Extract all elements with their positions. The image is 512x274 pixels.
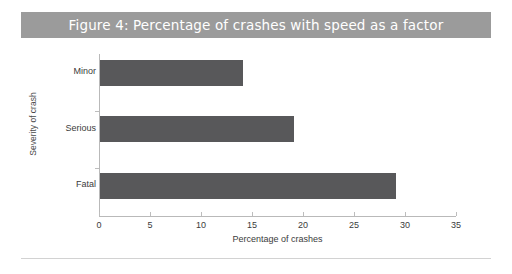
x-axis-tick xyxy=(303,212,304,216)
x-axis-tick xyxy=(252,212,253,216)
x-axis-tick xyxy=(405,212,406,216)
footer-divider xyxy=(21,258,491,259)
x-axis-tick-label: 15 xyxy=(237,220,267,230)
chart-plot-area: Severity of crash Minor Serious Fatal 0 … xyxy=(0,44,512,244)
x-axis-tick-label: 25 xyxy=(339,220,369,230)
figure-title-text: Figure 4: Percentage of crashes with spe… xyxy=(69,17,444,33)
y-axis-tick xyxy=(95,111,99,112)
y-axis-label-minor: Minor xyxy=(40,66,96,76)
x-axis-line xyxy=(99,216,456,217)
x-axis-tick xyxy=(99,212,100,216)
figure-container: Figure 4: Percentage of crashes with spe… xyxy=(0,0,512,274)
x-axis-title: Percentage of crashes xyxy=(99,234,456,244)
x-axis-tick-label: 5 xyxy=(135,220,165,230)
y-axis-title: Severity of crash xyxy=(28,69,38,179)
x-axis-tick xyxy=(201,212,202,216)
x-axis-tick xyxy=(354,212,355,216)
x-axis-tick-label: 0 xyxy=(84,220,114,230)
x-axis-tick-label: 30 xyxy=(390,220,420,230)
x-axis-tick xyxy=(456,212,457,216)
bar-serious xyxy=(100,116,294,142)
bar-fatal xyxy=(100,173,396,199)
x-axis-tick-label: 35 xyxy=(441,220,471,230)
y-axis-label-serious: Serious xyxy=(40,123,96,133)
y-axis-tick xyxy=(95,168,99,169)
x-axis-tick xyxy=(150,212,151,216)
figure-title-banner: Figure 4: Percentage of crashes with spe… xyxy=(21,12,491,38)
bar-minor xyxy=(100,60,243,86)
x-axis-tick-label: 20 xyxy=(288,220,318,230)
y-axis-tick-labels: Minor Serious Fatal xyxy=(40,44,96,216)
y-axis-label-fatal: Fatal xyxy=(40,179,96,189)
x-axis-tick-label: 10 xyxy=(186,220,216,230)
